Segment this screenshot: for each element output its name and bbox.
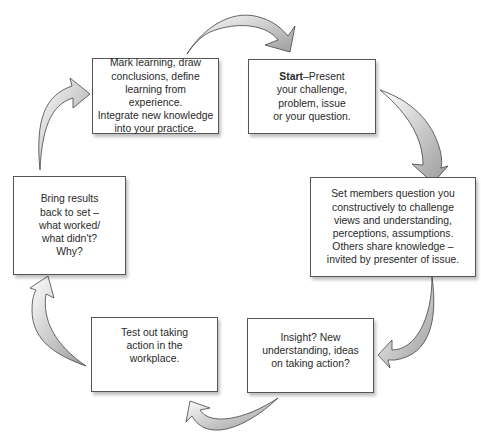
step-question-box: Set members question you constructively … — [310, 177, 476, 277]
step-learning-line: Mark learning, draw — [97, 56, 214, 69]
step-learning-line: Integrate new knowledge — [97, 109, 214, 122]
step-start-line: Present — [309, 71, 345, 82]
step-results-line: back to set – — [39, 206, 100, 219]
step-insight-line: understanding, ideas — [262, 344, 358, 357]
step-learning-line: learning from experience. — [97, 83, 214, 109]
step-start-first-line: Start–Present — [273, 70, 350, 83]
step-test-line: workplace. — [121, 352, 188, 365]
arrow-learning-to-start — [187, 15, 295, 54]
step-insight-line: Insight? New — [262, 331, 358, 344]
step-question-line: constructively to challenge — [327, 201, 459, 214]
step-insight-line: on taking action? — [262, 357, 358, 370]
start-label: Start — [279, 71, 303, 82]
step-test-line: Test out taking — [121, 326, 188, 339]
step-test-box: Test out taking action in the workplace. — [91, 317, 218, 392]
step-results-line: what worked/ — [39, 219, 100, 232]
step-question-line: invited by presenter of issue. — [327, 253, 459, 266]
step-results-box: Bring results back to set – what worked/… — [13, 176, 126, 275]
step-results-line: what didn't? — [39, 232, 100, 245]
step-start-line: problem, issue — [273, 97, 350, 110]
step-question-line: perceptions, assumptions. — [327, 227, 459, 240]
arrow-results-to-learning — [39, 78, 90, 170]
step-results-line: Bring results — [39, 192, 100, 205]
step-start-line: your challenge, — [273, 83, 350, 96]
step-insight-box: Insight? New understanding, ideas on tak… — [247, 318, 374, 393]
step-question-line: Others share knowledge – — [327, 240, 459, 253]
step-question-line: Set members question you — [327, 187, 459, 200]
arrow-test-to-results — [30, 276, 86, 366]
arrow-question-to-insight — [378, 277, 434, 368]
arrow-start-to-question — [380, 90, 448, 183]
step-results-line: Why? — [39, 245, 100, 258]
step-start-box: Start–Present your challenge, problem, i… — [248, 59, 376, 134]
step-learning-line: conclusions, define — [97, 70, 214, 83]
step-start-line: or your question. — [273, 110, 350, 123]
step-learning-line: into your practice. — [97, 122, 214, 135]
step-question-line: views and understanding, — [327, 214, 459, 227]
arrow-insight-to-test — [186, 398, 278, 430]
step-test-line: action in the — [121, 339, 188, 352]
step-learning-box: Mark learning, draw conclusions, define … — [92, 58, 219, 134]
